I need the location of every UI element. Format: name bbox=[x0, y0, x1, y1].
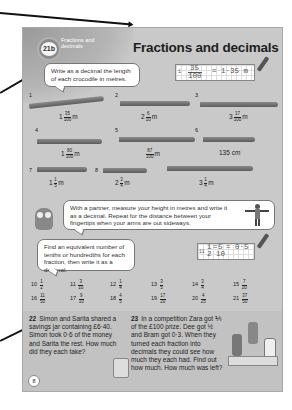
word-problem-23: 23In a competition Zara got ⅕ of the £10… bbox=[131, 315, 225, 372]
example-fraction-numerator: 35 bbox=[190, 65, 199, 72]
worked-example-2: 11 1 2 = 5 10 = 0·5 bbox=[197, 243, 255, 260]
question-15: 15 720 bbox=[233, 280, 248, 290]
question-11: 11 310 bbox=[70, 280, 84, 290]
question-number: 22 bbox=[29, 315, 36, 322]
crocodile-image bbox=[120, 101, 190, 106]
word-problem-22: 22Simon and Sarita shared a savings jar … bbox=[29, 315, 117, 356]
instruction-bubble-crocodiles: Write as a decimal the length of each cr… bbox=[44, 63, 140, 87]
crocodile-image bbox=[167, 166, 253, 171]
crocodile-length: 115m bbox=[49, 178, 64, 188]
instruction-text: With a partner, measure your height in m… bbox=[70, 204, 227, 226]
question-18: 18 45 bbox=[110, 294, 123, 304]
unit-label: Fractions and decimals bbox=[61, 37, 101, 49]
instruction-bubble-measure: With a partner, measure your height in m… bbox=[63, 200, 275, 230]
owl-mascot-icon bbox=[35, 208, 53, 230]
example-number: 1 bbox=[178, 69, 181, 76]
prize-podium-illustration bbox=[228, 318, 276, 364]
crocodile-image bbox=[119, 137, 195, 142]
example-answer: = 0·5 bbox=[226, 244, 249, 251]
example-eq-denominator: 10 bbox=[216, 251, 225, 258]
question-number: 4 bbox=[35, 127, 38, 133]
question-20: 20 425 bbox=[192, 294, 207, 304]
crocodile-length: 2610m bbox=[141, 112, 157, 122]
crocodile-image bbox=[203, 137, 255, 142]
pencil-icon bbox=[257, 56, 269, 71]
crocodile-length: 135100m bbox=[59, 112, 78, 122]
example-denominator: 2 bbox=[207, 251, 212, 258]
question-number: 3 bbox=[195, 92, 198, 98]
example-fraction-denominator: 100 bbox=[188, 72, 202, 80]
instruction-bubble-fractions: Find an equivalent number of tenths or h… bbox=[37, 239, 135, 271]
unit-badge-number: 21b bbox=[41, 42, 57, 56]
crocodile-image bbox=[103, 168, 147, 173]
question-17: 17 910 bbox=[70, 294, 85, 304]
question-number: 5 bbox=[115, 127, 118, 133]
question-19: 19 1720 bbox=[151, 294, 167, 304]
instruction-text: Write as a decimal the length of each cr… bbox=[51, 67, 131, 82]
word-problem-text: Simon and Sarita shared a savings jar co… bbox=[29, 315, 116, 355]
crocodile-length: 314m bbox=[199, 178, 214, 188]
question-14: 14 34 bbox=[192, 280, 205, 290]
annotation-arrow-title bbox=[0, 12, 132, 25]
question-21: 21 3750 bbox=[233, 294, 249, 304]
instruction-text: Find an equivalent number of tenths or h… bbox=[44, 243, 125, 273]
question-12: 12 14 bbox=[110, 280, 123, 290]
word-problem-text: In a competition Zara got ⅕ of the £100 … bbox=[131, 315, 222, 371]
question-number: 6 bbox=[195, 127, 198, 133]
question-number: 1 bbox=[29, 92, 32, 98]
question-number: 8 bbox=[95, 167, 98, 173]
question-number: 7 bbox=[29, 167, 32, 173]
page-title: Fractions and decimals bbox=[133, 40, 279, 55]
question-number: 2 bbox=[115, 92, 118, 98]
crocodile-image bbox=[37, 167, 87, 172]
pencil-icon bbox=[257, 233, 269, 248]
question-16: 16 1150 bbox=[31, 294, 46, 304]
crocodile-length: 180100m bbox=[61, 149, 80, 159]
child-arms-out-icon bbox=[245, 204, 269, 226]
question-13: 13 35 bbox=[151, 280, 164, 290]
example-number: 11 bbox=[199, 248, 204, 255]
crocodile-length: 87100m bbox=[145, 149, 160, 159]
crocodile-length: 317100m bbox=[229, 112, 248, 122]
crocodile-image bbox=[37, 139, 102, 144]
savings-jar-icon bbox=[113, 358, 129, 378]
worksheet-page: 21b Fractions and decimals Fractions and… bbox=[22, 27, 283, 392]
question-10: 10 12 bbox=[31, 280, 44, 290]
example-answer: = 1·35 m bbox=[212, 68, 248, 75]
crocodile-length: 135 cm bbox=[219, 149, 240, 156]
question-number: 23 bbox=[131, 315, 138, 322]
worked-example-1: 1 35 100 = 1·35 m bbox=[175, 64, 255, 81]
crocodile-length: 234m bbox=[115, 178, 130, 188]
page-number: 8 bbox=[28, 375, 40, 387]
crocodile-image bbox=[200, 102, 278, 107]
unit-badge: 21b bbox=[37, 37, 61, 61]
